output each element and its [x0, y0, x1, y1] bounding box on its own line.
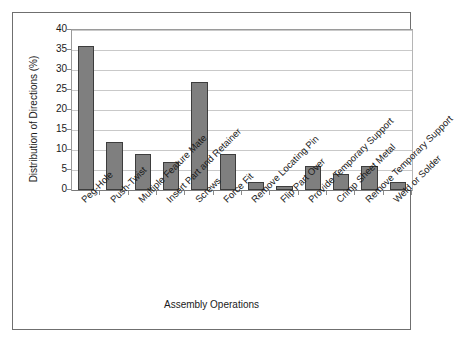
chart-figure: Distribution of Directions (%) 051015202… [12, 12, 411, 330]
bar [78, 46, 94, 190]
y-axis-tick-label: 5 [39, 163, 67, 175]
x-axis-title: Assembly Operations [13, 299, 410, 310]
y-axis-tick-label: 10 [39, 143, 67, 155]
y-axis-tick-label: 15 [39, 123, 67, 135]
y-axis-tick-labels: 0510152025303540 [39, 29, 67, 191]
y-axis-tick-label: 20 [39, 103, 67, 115]
y-axis-tick-label: 35 [39, 43, 67, 55]
y-axis-tick-label: 25 [39, 83, 67, 95]
y-axis-tick-label: 0 [39, 183, 67, 195]
bars-layer [72, 30, 412, 190]
y-axis-tick-label: 40 [39, 23, 67, 35]
x-axis-tick-labels: Peg-HolePush-TwistMultiple Feature MateI… [13, 195, 412, 295]
plot-area [71, 29, 413, 191]
y-axis-tick-label: 30 [39, 63, 67, 75]
